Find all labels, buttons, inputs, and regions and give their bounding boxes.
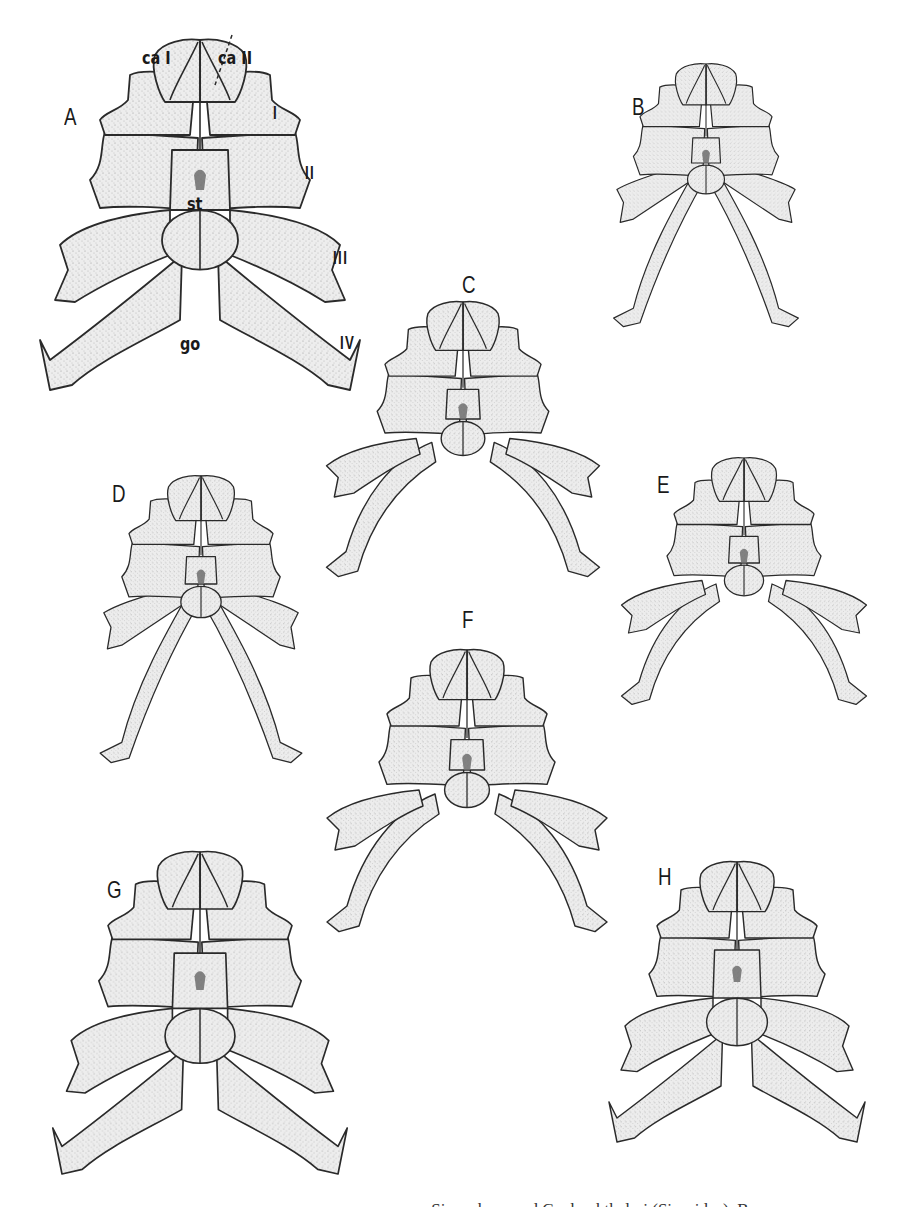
panel-c-drawing [327,302,600,577]
leg-numeral-ii: II [305,163,315,182]
panel-label-c: C [462,273,476,297]
panel-h-drawing [609,862,865,1142]
leg-numeral-iv: IV [340,333,355,352]
panel-label-e: E [657,473,669,497]
coxosternal-drawings [0,0,908,1207]
panel-label-f: F [462,608,473,632]
panel-label-h: H [658,865,672,889]
panel-f-drawing [327,650,607,932]
label-ca-ii: ca II [218,50,252,67]
panel-d-drawing [100,476,302,763]
panel-label-d: D [112,482,126,506]
leg-numeral-iii: III [333,248,348,267]
label-sternum: st [187,196,203,213]
panel-label-b: B [632,95,644,119]
caption-text: … Siro rubens and Cyphophthalmi (Sironid… [0,1200,908,1207]
figure-plate: ABCDEFGH ca I ca II st go I II III IV … … [0,0,908,1207]
figure-caption: … Siro rubens and Cyphophthalmi (Sironid… [0,1198,908,1207]
panel-label-g: G [107,878,122,902]
leg-numeral-i: I [273,103,278,122]
panel-g-drawing [53,852,347,1174]
panel-label-a: A [64,105,76,129]
label-ca-i: ca I [142,50,171,67]
label-gonopore: go [180,336,200,353]
